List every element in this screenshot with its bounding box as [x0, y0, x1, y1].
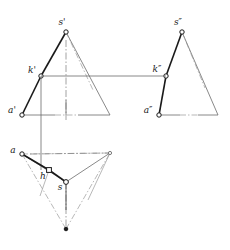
label-front-base-left: a': [8, 105, 16, 115]
side-view-edge-pierce-to-base: [159, 76, 166, 115]
label-plan-apex: s: [58, 182, 63, 192]
label-plan-vertex-a: a: [10, 145, 15, 155]
front-view-right-edge: [66, 32, 110, 115]
plan-right-vertex-point: [108, 151, 111, 154]
front-apex-point: [64, 30, 68, 34]
plan-pierce-point: [47, 168, 52, 173]
side-view-inner-edge: [182, 32, 205, 88]
side-view-edge-apex-to-pierce: [166, 32, 182, 76]
front-base-left-point: [20, 113, 24, 117]
front-view-inner-edge: [66, 32, 93, 90]
geometry-canvas: s' k' a' s″ k″ a″: [0, 0, 230, 250]
label-side-pierce: k″: [153, 64, 162, 74]
technical-drawing: s' k' a' s″ k″ a″: [0, 0, 230, 250]
plan-apex-point: [64, 180, 69, 185]
label-side-base-left: a″: [144, 105, 153, 115]
label-front-pierce: k': [28, 65, 36, 75]
plan-vertex-a-point: [20, 152, 24, 156]
front-view-edge-apex-to-pierce: [41, 32, 66, 76]
side-base-left-point: [157, 113, 161, 117]
label-front-apex: s': [58, 17, 65, 27]
plan-edge-a-to-pierce: [22, 154, 49, 170]
plan-view-group: a h s: [10, 145, 111, 231]
front-view-group: s' k' a': [8, 17, 110, 120]
side-view-group: s″ k″ a″: [144, 17, 218, 117]
label-plan-pierce: h: [40, 171, 46, 181]
side-apex-point: [180, 30, 184, 34]
plan-bottom-vertex-point: [64, 227, 68, 231]
front-view-edge-pierce-to-base: [22, 76, 41, 115]
plan-outline-bottom-to-right: [66, 153, 110, 229]
label-side-apex: s″: [174, 17, 183, 27]
